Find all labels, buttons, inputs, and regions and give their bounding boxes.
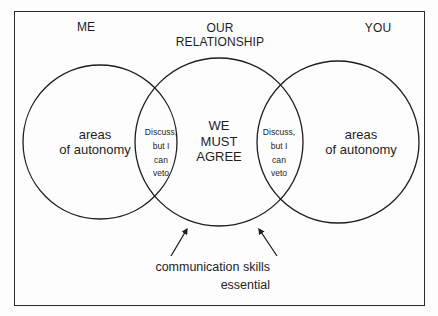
me-autonomy-label: areas of autonomy	[40, 128, 150, 158]
heading-relationship: RELATIONSHIP	[170, 36, 270, 50]
left-overlap-line4: veto	[139, 166, 184, 180]
left-overlap-line1: Discuss,	[139, 125, 184, 139]
you-autonomy-label: areas of autonomy	[306, 128, 416, 158]
right-overlap-line3: can	[257, 153, 302, 167]
you-autonomy-line2: of autonomy	[306, 143, 416, 158]
right-overlap-label: Discuss, but I can veto	[257, 125, 302, 180]
right-overlap-line1: Discuss,	[257, 125, 302, 139]
caption-line1: communication skills	[130, 258, 270, 276]
left-overlap-line3: can	[139, 153, 184, 167]
we-must-agree-label: WE MUST AGREE	[189, 118, 249, 165]
you-autonomy-line1: areas	[306, 128, 416, 143]
center-line2: MUST	[189, 134, 249, 150]
heading-you: YOU	[358, 22, 398, 36]
me-autonomy-line1: areas	[40, 128, 150, 143]
left-overlap-line2: but I	[139, 139, 184, 153]
heading-our: OUR	[170, 22, 270, 36]
caption: communication skills essential	[130, 258, 270, 294]
center-line1: WE	[189, 118, 249, 134]
center-line3: AGREE	[189, 149, 249, 165]
me-autonomy-line2: of autonomy	[40, 143, 150, 158]
arrow-left-icon	[171, 229, 187, 256]
caption-line2: essential	[130, 276, 270, 294]
left-overlap-label: Discuss, but I can veto	[139, 125, 184, 180]
heading-me: ME	[66, 21, 106, 35]
heading-our-relationship: OUR RELATIONSHIP	[170, 22, 270, 50]
right-overlap-line2: but I	[257, 139, 302, 153]
arrow-right-icon	[259, 229, 277, 256]
right-overlap-line4: veto	[257, 166, 302, 180]
